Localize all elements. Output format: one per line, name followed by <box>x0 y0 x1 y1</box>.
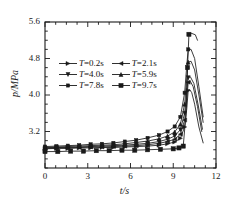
data-point-marker <box>119 61 123 65</box>
x-tick-label: 6 <box>120 171 142 181</box>
legend-label-value: =5.9s <box>137 69 157 79</box>
chart-figure: p/MPa t/s 3.24.04.85.6 036912 T=0.2sT=2.… <box>0 0 249 215</box>
legend-label-value: =7.8s <box>84 80 104 90</box>
legend-marker-icon <box>111 70 131 79</box>
data-point-marker <box>43 145 46 148</box>
legend-item: T=0.2s <box>58 58 104 68</box>
data-point-marker <box>157 134 160 137</box>
data-point-marker <box>55 145 58 148</box>
y-axis-label: p/MPa <box>9 54 20 114</box>
legend-label: T=5.9s <box>132 69 157 79</box>
legend-item: T=5.9s <box>111 69 157 79</box>
data-point-marker <box>179 115 182 118</box>
data-point-marker <box>123 140 126 143</box>
data-point-marker <box>66 61 70 65</box>
legend-marker-icon <box>111 81 131 90</box>
legend-marker-icon <box>58 81 78 90</box>
y-tick-label: 4.0 <box>10 89 40 99</box>
data-point-marker <box>56 149 60 153</box>
data-point-marker <box>185 66 189 70</box>
legend-item: T=7.8s <box>58 80 104 90</box>
legend-label: T=0.2s <box>79 58 104 68</box>
legend-label: T=4.0s <box>79 69 104 79</box>
legend-item: T=2.1s <box>111 58 157 68</box>
x-axis-label: t/s <box>0 185 249 196</box>
chart-legend: T=0.2sT=2.1sT=4.0sT=5.9sT=7.8sT=9.7s <box>58 58 157 90</box>
series-group <box>43 32 203 153</box>
data-point-marker <box>112 141 115 144</box>
x-tick-label: 3 <box>77 171 99 181</box>
data-point-marker <box>107 149 111 153</box>
y-tick-label: 5.6 <box>10 16 40 26</box>
data-point-marker <box>78 144 81 147</box>
legend-marker-icon <box>111 59 131 68</box>
data-point-marker <box>173 125 176 128</box>
legend-label-value: =4.0s <box>84 69 104 79</box>
y-tick-label: 4.8 <box>10 53 40 63</box>
legend-label-value: =0.2s <box>84 58 104 68</box>
data-point-marker <box>120 148 124 152</box>
data-point-marker <box>119 83 123 87</box>
data-point-marker <box>178 136 182 140</box>
data-point-marker <box>171 147 175 151</box>
legend-label: T=9.7s <box>132 80 157 90</box>
legend-label-value: =9.7s <box>137 80 157 90</box>
data-point-marker <box>66 144 69 147</box>
data-point-marker <box>183 91 186 94</box>
legend-item: T=4.0s <box>58 69 104 79</box>
legend-label: T=7.8s <box>79 80 104 90</box>
data-point-marker <box>66 83 69 86</box>
data-point-marker <box>146 148 150 152</box>
y-tick-label: 3.2 <box>10 126 40 136</box>
legend-marker-icon <box>58 70 78 79</box>
legend-label-value: =2.1s <box>137 58 157 68</box>
data-point-marker <box>135 139 138 142</box>
legend-label: T=2.1s <box>132 58 157 68</box>
data-point-marker <box>166 130 169 133</box>
data-point-marker <box>89 143 92 146</box>
data-point-marker <box>158 147 162 151</box>
data-point-marker <box>133 148 137 152</box>
x-axis-label-text: t/s <box>120 185 129 196</box>
data-point-marker <box>146 136 149 139</box>
data-point-marker <box>100 142 103 145</box>
x-tick-label: 9 <box>162 171 184 181</box>
x-tick-label: 12 <box>205 171 227 181</box>
data-point-marker <box>187 32 191 36</box>
x-tick-label: 0 <box>34 171 56 181</box>
data-point-marker <box>43 149 47 153</box>
legend-marker-icon <box>58 59 78 68</box>
data-point-marker <box>94 149 98 153</box>
data-point-marker <box>181 144 185 148</box>
data-point-marker <box>177 146 181 150</box>
legend-item: T=9.7s <box>111 80 157 90</box>
data-point-marker <box>69 149 73 153</box>
data-point-marker <box>81 149 85 153</box>
plot-area <box>0 0 249 215</box>
